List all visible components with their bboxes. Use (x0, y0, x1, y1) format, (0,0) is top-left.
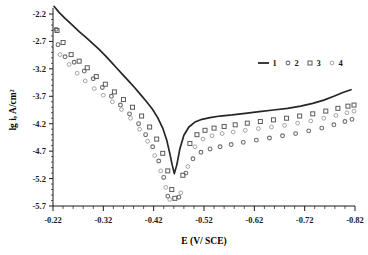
data-point-marker (311, 112, 315, 116)
data-point-marker (179, 191, 183, 195)
data-point-marker (307, 129, 311, 133)
legend-label: 2 (295, 58, 299, 68)
data-point-marker (285, 116, 289, 120)
data-point-marker (212, 126, 216, 130)
x-axis-tick-label: -0.32 (94, 215, 112, 225)
data-point-marker (120, 108, 124, 112)
data-point-marker (186, 165, 190, 169)
data-point-marker (229, 143, 233, 147)
x-axis-tick-label: -0.72 (296, 215, 314, 225)
data-point-marker (308, 61, 312, 65)
data-point-marker (112, 90, 116, 94)
series-2 (54, 27, 354, 199)
data-point-marker (137, 122, 141, 126)
data-point-marker (334, 114, 338, 118)
data-point-marker (67, 63, 71, 67)
data-point-marker (222, 124, 226, 128)
data-point-marker (220, 132, 224, 136)
data-point-marker (191, 157, 195, 161)
data-point-marker (218, 145, 222, 149)
data-point-marker (332, 123, 336, 127)
data-point-marker (345, 111, 349, 115)
data-point-marker (121, 98, 125, 102)
polarization-chart: -2.2-2.7-3.2-3.7-4.2-4.7-5.2-5.7-0.22-0.… (0, 0, 368, 255)
data-point-marker (159, 169, 163, 173)
data-point-marker (146, 139, 150, 143)
data-point-marker (157, 159, 161, 163)
data-point-marker (177, 195, 181, 199)
y-axis-tick-label: -5.2 (33, 174, 46, 184)
data-point-marker (343, 120, 347, 124)
legend-label: 4 (339, 58, 344, 68)
y-axis-tick-label: -4.7 (33, 146, 47, 156)
y-axis-tick-label: -5.7 (33, 201, 47, 211)
data-point-marker (231, 130, 235, 134)
data-point-marker (241, 140, 245, 144)
y-axis-tick-label: -2.2 (33, 9, 46, 19)
data-point-marker (56, 43, 60, 47)
data-point-marker (173, 196, 177, 200)
data-point-marker (336, 106, 340, 110)
data-point-marker (193, 145, 197, 149)
data-point-marker (138, 127, 142, 131)
data-point-marker (350, 117, 354, 121)
data-point-marker (83, 79, 87, 83)
y-axis-tick-label: -4.2 (33, 119, 46, 129)
data-point-marker (281, 134, 285, 138)
chart-legend: 1234 (258, 58, 344, 68)
data-point-marker (129, 116, 133, 120)
data-point-marker (268, 136, 272, 140)
data-point-marker (298, 114, 302, 118)
data-point-marker (162, 176, 166, 180)
data-point-marker (164, 185, 168, 189)
data-point-marker (233, 123, 237, 127)
x-axis-tick-label: -0.42 (145, 215, 163, 225)
data-point-marker (140, 114, 144, 118)
data-point-marker (210, 134, 214, 138)
data-point-marker (245, 121, 249, 125)
data-point-marker (286, 61, 290, 65)
data-point-marker (271, 118, 275, 122)
data-point-marker (296, 121, 300, 125)
data-point-marker (75, 71, 79, 75)
data-point-marker (170, 188, 174, 192)
data-point-marker (110, 100, 114, 104)
data-point-marker (188, 141, 192, 145)
data-point-marker (61, 41, 65, 45)
y-axis-tick-label: -3.7 (33, 91, 47, 101)
data-point-marker (63, 55, 67, 59)
x-axis-tick-label: -0.82 (346, 215, 364, 225)
data-point-marker (270, 125, 274, 129)
data-point-marker (101, 93, 105, 97)
y-axis-title: lg i, A/cm² (8, 89, 18, 130)
data-point-marker (109, 94, 113, 98)
y-axis-tick-label: -3.2 (33, 64, 46, 74)
data-point-marker (131, 105, 135, 109)
data-point-marker (148, 125, 152, 129)
chart-canvas: -2.2-2.7-3.2-3.7-4.2-4.7-5.2-5.7-0.22-0.… (0, 0, 368, 255)
data-point-marker (199, 150, 203, 154)
data-point-marker (153, 154, 157, 158)
data-point-marker (330, 61, 334, 65)
data-point-marker (195, 133, 199, 137)
data-point-marker (254, 138, 258, 142)
data-point-marker (258, 120, 262, 124)
data-point-marker (144, 133, 148, 137)
data-point-marker (322, 116, 326, 120)
data-point-marker (69, 53, 73, 57)
data-point-marker (201, 137, 205, 141)
data-point-marker (324, 109, 328, 113)
legend-label: 3 (317, 58, 321, 68)
data-point-marker (92, 87, 96, 91)
series-1 (54, 6, 351, 173)
x-axis-tick-label: -0.62 (245, 215, 263, 225)
data-point-marker (85, 66, 89, 70)
data-point-marker (203, 128, 207, 132)
legend-label: 1 (273, 58, 277, 68)
data-point-marker (155, 137, 159, 141)
data-point-marker (283, 123, 287, 127)
data-point-marker (294, 132, 298, 136)
data-point-marker (168, 198, 172, 202)
series-3 (55, 28, 356, 200)
data-point-marker (320, 126, 324, 130)
